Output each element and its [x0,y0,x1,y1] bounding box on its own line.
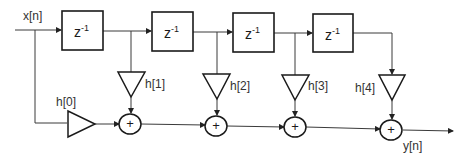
gain-h3-triangle [282,75,309,100]
gain-h4-triangle [379,75,405,100]
gain-h2-triangle [203,74,230,99]
output-wire [403,130,453,131]
coef-label-h2: h[2] [230,80,250,92]
delay-label-2: z-1 [164,25,179,40]
delay-label-3: z-1 [245,26,260,41]
adder-4-plus: + [381,123,401,136]
coef-label-h1: h[1] [145,78,165,90]
adder1-to-adder2-wire [141,124,205,125]
delay-label-4: z-1 [325,27,340,42]
gain-h0-triangle [68,111,95,137]
tap-4-wire [353,33,392,74]
delay-label-1: z-1 [74,24,89,39]
adder-2-plus: + [206,119,226,132]
coef-label-h3: h[3] [308,80,328,92]
input-label: x[n] [23,10,42,22]
gain-h1-triangle [118,72,145,97]
fir-filter-diagram: z-1 z-1 z-1 z-1 x[n] y[n] h[0] h[1] h[2]… [0,0,469,153]
adder3-to-adder4-wire [306,127,380,129]
adder2-to-adder3-wire [227,126,284,127]
adder-1-plus: + [120,117,140,130]
adder-3-plus: + [285,120,305,133]
output-label: y[n] [403,140,422,152]
coef-label-h4: h[4] [355,82,375,94]
coef-label-h0: h[0] [56,96,76,108]
